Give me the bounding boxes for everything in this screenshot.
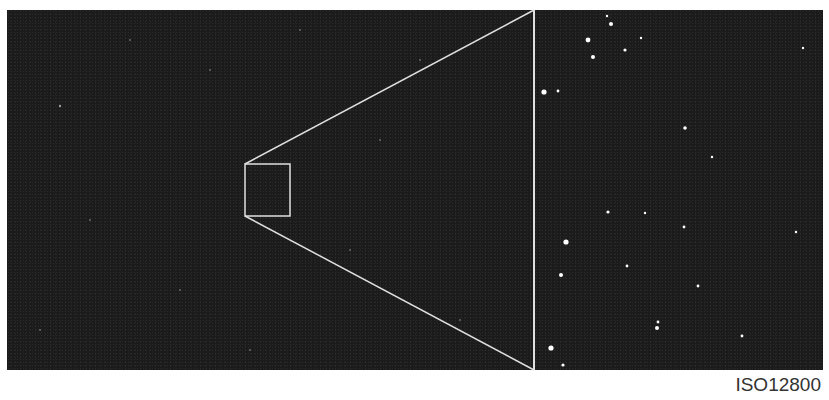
zoom-line-bottom (245, 216, 534, 370)
zoom-box (245, 164, 290, 216)
zoom-line-top (245, 10, 534, 164)
wide-view-stars (39, 29, 461, 351)
iso-caption: ISO12800 (735, 374, 821, 396)
zoom-indicator (245, 10, 534, 370)
inset-stars (541, 15, 804, 367)
zoom-overlay (0, 0, 829, 400)
